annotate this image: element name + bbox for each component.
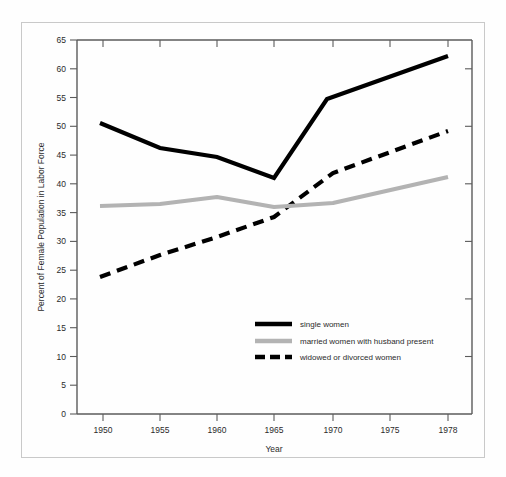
y-tick-label: 25 <box>57 265 67 275</box>
x-axis-tick-labels: 1950 1955 1960 1965 1970 1975 1978 <box>94 425 458 435</box>
y-tick-label: 5 <box>61 380 66 390</box>
x-axis-title: Year <box>265 444 282 454</box>
legend-label-single-women: single women <box>300 320 349 329</box>
y-tick-label: 20 <box>57 294 67 304</box>
y-tick-label: 45 <box>57 150 67 160</box>
y-axis-tick-labels: 65 60 55 50 45 40 35 30 25 20 15 10 5 0 <box>57 35 67 419</box>
line-chart: 65 60 55 50 45 40 35 30 25 20 15 10 5 0 … <box>0 0 506 477</box>
y-axis-title: Percent of Female Population in Labor Fo… <box>36 142 46 311</box>
legend-label-widowed-or-divorced-women: widowed or divorced women <box>299 353 401 362</box>
y-tick-label: 35 <box>57 208 67 218</box>
y-tick-label: 50 <box>57 121 67 131</box>
x-tick-label: 1960 <box>208 425 227 435</box>
y-tick-label: 60 <box>57 64 67 74</box>
y-axis-ticks-right <box>465 69 472 357</box>
series-line-married-women-with-husband-present <box>100 177 448 207</box>
series-line-single-women <box>100 56 448 178</box>
chart-figure: 65 60 55 50 45 40 35 30 25 20 15 10 5 0 … <box>0 0 506 477</box>
y-tick-label: 10 <box>57 352 67 362</box>
x-tick-label: 1978 <box>439 425 458 435</box>
y-tick-label: 55 <box>57 93 67 103</box>
x-tick-label: 1950 <box>94 425 113 435</box>
y-tick-label: 15 <box>57 323 67 333</box>
x-tick-label: 1965 <box>265 425 284 435</box>
chart-legend: single women married women with husband … <box>255 320 434 362</box>
x-tick-label: 1970 <box>324 425 343 435</box>
x-tick-label: 1955 <box>151 425 170 435</box>
y-axis-ticks <box>70 40 77 414</box>
y-tick-label: 0 <box>61 409 66 419</box>
x-axis-ticks <box>103 414 448 421</box>
legend-label-married-women-with-husband-present: married women with husband present <box>300 337 434 346</box>
y-tick-label: 30 <box>57 236 67 246</box>
y-tick-label: 40 <box>57 179 67 189</box>
x-axis-ticks-top <box>103 40 448 47</box>
x-tick-label: 1975 <box>381 425 400 435</box>
y-tick-label: 65 <box>57 35 67 45</box>
